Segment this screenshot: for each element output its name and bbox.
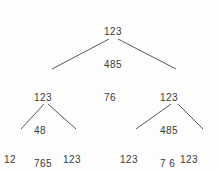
leaf-node-2-row1: 123 bbox=[63, 154, 81, 165]
level1-right-node-row1: 123 bbox=[160, 92, 178, 103]
leaf-node-1-row1: 12 bbox=[4, 154, 22, 165]
edge-root-to-right bbox=[118, 39, 176, 69]
root-node: 123 485 76 bbox=[104, 4, 122, 125]
level1-left-node-row3: 765 bbox=[34, 158, 52, 169]
level1-left-node-row2: 48 bbox=[34, 125, 52, 136]
level1-right-node: 123 485 7 6 bbox=[160, 70, 178, 172]
level1-left-node: 123 48 765 bbox=[34, 70, 52, 172]
level1-right-node-row2: 485 bbox=[160, 125, 178, 136]
leaf-node-3-row1: 123 bbox=[120, 154, 138, 165]
leaf-node-4-row1: 123 bbox=[180, 154, 198, 165]
edge-right-to-leaf4 bbox=[178, 104, 203, 129]
root-node-row1: 123 bbox=[104, 26, 122, 37]
root-node-row2: 485 bbox=[104, 59, 122, 70]
leaf-node-4: 123 485 76 bbox=[180, 132, 198, 172]
level1-right-node-row3: 7 6 bbox=[160, 158, 178, 169]
edge-root-to-left bbox=[52, 39, 109, 69]
leaf-node-2: 123 4 8 76 bbox=[63, 132, 81, 172]
leaf-node-3: 123 485 76 bbox=[120, 132, 138, 172]
tree-diagram-canvas: 123 485 76 123 48 765 123 485 7 6 12 483… bbox=[0, 0, 220, 172]
root-node-row3: 76 bbox=[104, 92, 122, 103]
level1-left-node-row1: 123 bbox=[34, 92, 52, 103]
leaf-node-1: 12 483 765 bbox=[4, 132, 22, 172]
edge-left-to-leaf2 bbox=[48, 104, 76, 129]
